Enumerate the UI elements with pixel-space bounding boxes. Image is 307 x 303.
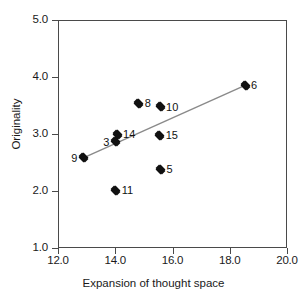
data-point-label: 15 — [166, 130, 178, 141]
data-point-label: 9 — [71, 153, 77, 164]
plot-area: 9314118101556 — [58, 20, 287, 248]
data-point-marker — [134, 98, 144, 108]
x-tick-label: 16.0 — [151, 255, 195, 267]
x-tick-label: 14.0 — [93, 255, 137, 267]
x-tick-label: 20.0 — [265, 255, 307, 267]
x-axis-label: Expansion of thought space — [0, 277, 307, 289]
y-tick-label: 2.0 — [8, 185, 48, 197]
data-point-label: 5 — [167, 164, 173, 175]
data-point-marker — [155, 130, 165, 140]
data-point-label: 6 — [251, 80, 257, 91]
y-tick-label: 1.0 — [8, 242, 48, 254]
data-point-label: 14 — [123, 129, 135, 140]
data-point-label: 3 — [103, 137, 109, 148]
data-point-marker — [240, 80, 250, 90]
data-point-label: 8 — [145, 98, 151, 109]
data-points-layer: 9314118101556 — [59, 21, 288, 249]
x-tick-label: 12.0 — [36, 255, 80, 267]
data-point-marker — [111, 185, 121, 195]
y-tick-label: 5.0 — [8, 14, 48, 26]
data-point-label: 10 — [166, 102, 178, 113]
data-point-marker — [155, 102, 165, 112]
data-point-label: 11 — [122, 185, 133, 196]
data-point-marker — [78, 153, 88, 163]
scatter-plot-figure: 5.04.03.02.01.0 12.014.016.018.020.0 931… — [0, 0, 307, 303]
data-point-marker — [156, 164, 166, 174]
x-tick-label: 18.0 — [208, 255, 252, 267]
y-axis-label: Originality — [10, 64, 22, 184]
